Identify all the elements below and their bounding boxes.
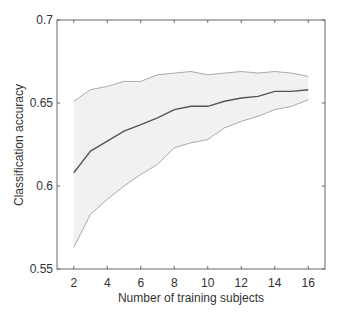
y-tick-label: 0.65	[30, 96, 54, 110]
x-tick-label: 16	[302, 276, 316, 290]
confidence-band	[74, 72, 308, 248]
x-tick-label: 14	[268, 276, 282, 290]
y-tick-label: 0.7	[36, 13, 53, 27]
x-tick-label: 8	[171, 276, 178, 290]
y-axis-label: Classification accuracy	[12, 84, 26, 206]
chart: 246810121416 0.550.60.650.7 Number of tr…	[0, 0, 341, 315]
x-axis-label: Number of training subjects	[118, 291, 264, 305]
x-tick-label: 4	[104, 276, 111, 290]
x-tick-label: 2	[70, 276, 77, 290]
x-tick-label: 10	[201, 276, 215, 290]
y-tick-label: 0.6	[36, 179, 53, 193]
y-tick-label: 0.55	[30, 262, 54, 276]
x-tick-label: 12	[235, 276, 249, 290]
x-tick-label: 6	[137, 276, 144, 290]
